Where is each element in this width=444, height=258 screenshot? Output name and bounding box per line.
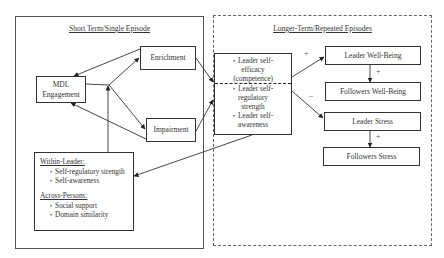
moderator-item: Social support [50, 201, 128, 211]
followers-well-being-box: Followers Well-Being [325, 82, 421, 101]
enrichment-box: Enrichment [140, 46, 196, 70]
impairment-label: Impairment [154, 125, 189, 134]
enrichment-label: Enrichment [151, 53, 186, 62]
moderator-item: Domain similarity [50, 210, 128, 220]
followers-well-being-label: Followers Well-Being [340, 87, 406, 96]
longer-term-panel-title: Longer-Term/Repeated Episodes [214, 24, 431, 33]
across-persons-list: Social support Domain similarity [40, 201, 128, 220]
leader-stress-box: Leader Stress [324, 112, 421, 131]
sign-positive-followers-well-being: + [376, 67, 381, 76]
moderator-item: Self-awareness [50, 176, 128, 186]
central-item-self-efficacy: •Leader self- efficacy (competence) [215, 57, 291, 83]
short-term-panel-title: Short Term/Single Episode [16, 24, 203, 33]
leader-well-being-box: Leader Well-Being [325, 46, 421, 65]
impairment-box: Impairment [146, 118, 196, 142]
leader-self-resources-box: •Leader self- efficacy (competence) •Lea… [214, 53, 292, 135]
mdl-engagement-box: MDL Engagement [36, 76, 86, 103]
followers-stress-box: Followers Stress [323, 147, 420, 166]
followers-stress-label: Followers Stress [347, 152, 397, 161]
central-item-self-regulatory: •Leader self- regulatory strength [215, 85, 291, 111]
central-item-self-awareness: •Leader self- awareness [215, 112, 291, 130]
sign-positive-followers-stress: + [376, 132, 381, 141]
within-leader-list: Self-regulatory strength Self-awareness [40, 167, 128, 186]
moderator-item: Self-regulatory strength [50, 167, 128, 177]
mdl-engagement-label-line2: Engagement [42, 90, 80, 99]
mdl-engagement-label-line1: MDL [53, 80, 70, 89]
within-leader-header: Within-Leader: [40, 158, 128, 167]
sign-negative-stress: – [309, 91, 313, 100]
moderators-box: Within-Leader: Self-regulatory strength … [34, 152, 134, 231]
sign-positive-well-being: + [304, 49, 309, 58]
across-persons-header: Across-Persons: [40, 192, 128, 201]
leader-stress-label: Leader Stress [352, 117, 393, 126]
leader-well-being-label: Leader Well-Being [345, 51, 402, 60]
